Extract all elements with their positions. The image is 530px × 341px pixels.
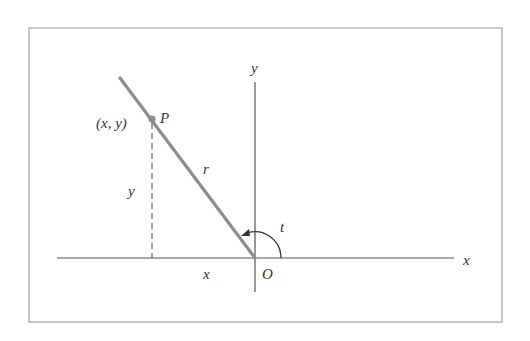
ray-r-label: r: [203, 161, 209, 177]
angle-arrowhead-icon: [241, 229, 250, 236]
point-p-label: P: [159, 110, 169, 126]
point-p-marker: [148, 115, 155, 122]
terminal-ray: [120, 78, 255, 258]
polar-coordinates-diagram: y x P (x, y) r y x t O: [0, 0, 530, 341]
origin-label: O: [262, 266, 273, 282]
projection-x-label: x: [202, 266, 210, 282]
projection-y-label: y: [126, 183, 135, 199]
x-axis-label: x: [462, 252, 470, 268]
y-axis-label: y: [249, 60, 258, 76]
angle-t-label: t: [280, 219, 285, 235]
point-coords-label: (x, y): [96, 115, 127, 132]
